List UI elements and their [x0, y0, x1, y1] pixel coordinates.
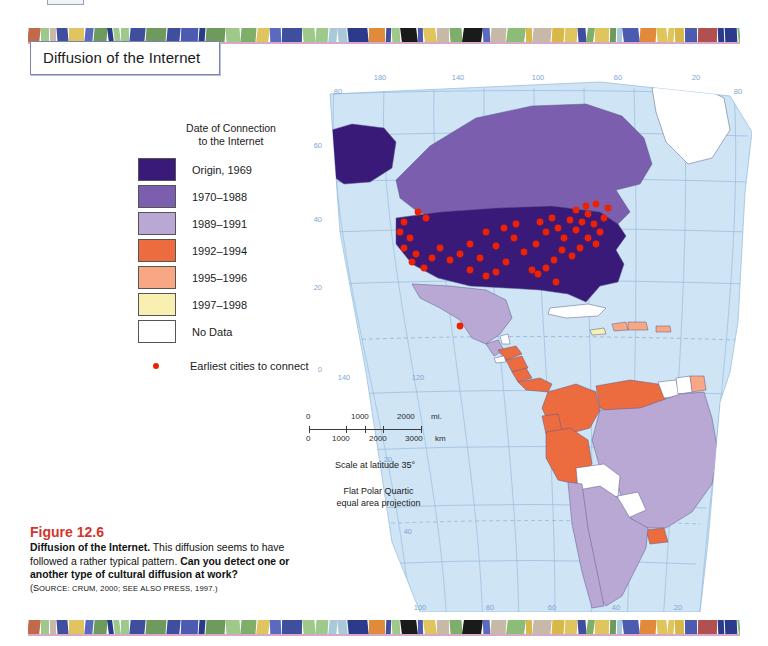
- mosaic-tile: [166, 28, 180, 42]
- graticule-label: 80: [734, 87, 742, 96]
- graticule-label: 100: [414, 603, 427, 612]
- decorative-mosaic-bottom: [28, 620, 740, 634]
- legend-item-label: 1995–1996: [192, 272, 247, 284]
- mosaic-tile: [166, 620, 180, 634]
- mosaic-tile: [698, 620, 717, 634]
- city-dot: [585, 211, 592, 218]
- map-region: [690, 376, 706, 392]
- caption-lead: Diffusion of the Internet.: [30, 542, 150, 553]
- city-dot: [477, 255, 484, 262]
- mosaic-tile: [617, 28, 622, 42]
- city-dot: [605, 205, 612, 212]
- figure-title: Diffusion of the Internet: [31, 42, 219, 74]
- mosaic-tile: [240, 620, 256, 634]
- graticule-label: 140: [338, 373, 351, 382]
- graticule-label: 20: [674, 603, 682, 612]
- mosaic-tile: [610, 28, 616, 42]
- mosaic-tile: [56, 28, 68, 42]
- mosaic-tile: [656, 28, 667, 42]
- mosaic-tile: [483, 28, 491, 42]
- graticule-label: 100: [532, 73, 545, 82]
- mosaic-tile: [386, 28, 392, 42]
- projection-line2: equal area projection: [316, 497, 441, 509]
- scale-km-label: 3000: [405, 434, 423, 443]
- mosaic-tile: [622, 620, 640, 634]
- city-dot: [559, 247, 566, 254]
- graticule-label: 120: [412, 373, 425, 382]
- mosaic-tile: [145, 620, 166, 634]
- city-dot: [483, 273, 490, 280]
- city-dot: [535, 271, 542, 278]
- mosaic-tile: [129, 28, 145, 42]
- mosaic-tile: [28, 620, 41, 634]
- mosaic-tile: [526, 28, 532, 42]
- city-dot: [543, 265, 550, 272]
- mosaic-tile: [198, 620, 205, 634]
- legend-item: 1970–1988: [138, 183, 313, 210]
- legend-color-swatch: [138, 293, 176, 316]
- city-dot: [561, 235, 568, 242]
- city-dot: [543, 229, 550, 236]
- scale-km-labels: 0100020003000km: [305, 434, 455, 447]
- mosaic-tile: [181, 28, 199, 42]
- scale-km-label: 2000: [369, 434, 387, 443]
- scale-bar-graphic: [305, 426, 455, 433]
- legend-item: Origin, 1969: [138, 156, 313, 183]
- mosaic-tile: [737, 620, 740, 634]
- legend-title: Date of Connection to the Internet: [156, 122, 306, 147]
- mosaic-tile: [337, 28, 347, 42]
- legend-dot-label: Earliest cities to connect: [190, 360, 309, 372]
- mosaic-tile: [302, 28, 315, 42]
- graticule-label: 40: [404, 527, 412, 536]
- legend-item-label: 1970–1988: [192, 191, 247, 203]
- mosaic-tile: [698, 28, 717, 42]
- city-dot: [467, 241, 474, 248]
- mosaic-tile: [121, 620, 129, 634]
- scale-mile-label: 0: [306, 412, 310, 421]
- mosaic-tile: [392, 620, 401, 634]
- mosaic-tile: [685, 28, 697, 42]
- mosaic-tile: [145, 28, 166, 42]
- scale-miles-labels: 010002000mi.: [305, 412, 455, 425]
- mosaic-tile: [565, 28, 578, 42]
- legend-item: No Data: [138, 318, 313, 345]
- city-dot: [423, 215, 430, 222]
- mosaic-tile: [328, 620, 337, 634]
- mosaic-tile: [400, 620, 418, 634]
- city-dot: [521, 249, 528, 256]
- city-dot: [569, 253, 576, 260]
- mosaic-tile: [449, 28, 462, 42]
- mosaic-tile: [423, 28, 437, 42]
- mosaic-tile: [113, 28, 121, 42]
- mosaic-tile: [506, 28, 526, 42]
- mosaic-tile: [316, 28, 329, 42]
- city-dot: [457, 323, 464, 330]
- map-svg: 1801401006020808010080604020140120604020…: [300, 72, 752, 612]
- legend-items: Origin, 19691970–19881989–19911992–19941…: [138, 156, 313, 345]
- mosaic-tile: [337, 620, 347, 634]
- graticule-label: 60: [548, 603, 556, 612]
- mosaic-tile: [718, 28, 725, 42]
- mosaic-tile: [667, 28, 674, 42]
- mosaic-tile: [347, 620, 368, 634]
- city-dot: [401, 219, 408, 226]
- map-region: [500, 334, 510, 344]
- mosaic-tile: [462, 620, 483, 634]
- mosaic-tile: [93, 620, 107, 634]
- map-canvas: 1801401006020808010080604020140120604020…: [300, 72, 752, 612]
- mosaic-tile: [640, 620, 657, 634]
- mosaic-tile: [50, 28, 56, 42]
- scale-mile-label: 1000: [351, 412, 369, 421]
- scale-bar: 010002000mi. 0100020003000km Scale at la…: [305, 412, 455, 470]
- mosaic-tile: [490, 28, 506, 42]
- mosaic-tile: [328, 28, 337, 42]
- scale-mile-label: mi.: [431, 412, 442, 421]
- mosaic-tile: [386, 620, 392, 634]
- city-dot: [601, 215, 608, 222]
- city-dot: [593, 241, 600, 248]
- legend-item-label: Origin, 1969: [192, 164, 252, 176]
- legend-item-label: 1997–1998: [192, 299, 247, 311]
- mosaic-tile: [41, 28, 49, 42]
- mosaic-tile: [181, 620, 199, 634]
- legend-color-swatch: [138, 266, 176, 289]
